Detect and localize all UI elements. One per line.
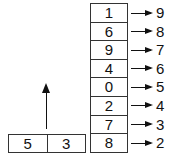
stack-cell: 73	[90, 116, 128, 135]
stack-cell: 97	[90, 41, 128, 60]
pair-right: 3	[48, 135, 86, 152]
cell-value: 4	[105, 60, 113, 77]
cell-target: 7	[156, 41, 164, 59]
cell-target: 5	[156, 78, 164, 96]
cell-value: 7	[105, 116, 113, 133]
cell-value: 8	[105, 134, 113, 151]
right-arrow-icon	[131, 87, 151, 88]
cell-target: 8	[156, 23, 164, 41]
up-arrow-icon	[46, 92, 48, 129]
right-arrow-icon	[131, 124, 151, 125]
stack-cell: 19	[90, 3, 128, 23]
stack-cell: 05	[90, 78, 128, 97]
stack-cell: 46	[90, 60, 128, 79]
right-arrow-icon	[131, 13, 151, 14]
cell-value: 1	[105, 4, 113, 21]
cell-target: 9	[156, 4, 164, 22]
stack-column: 19 68 97 46 05 24 73 82	[90, 3, 128, 153]
cell-value: 0	[105, 78, 113, 95]
stack-cell: 68	[90, 23, 128, 42]
right-arrow-icon	[131, 68, 151, 69]
right-arrow-icon	[131, 50, 151, 51]
cell-target: 2	[156, 134, 164, 152]
stack-cell: 24	[90, 97, 128, 116]
right-arrow-icon	[131, 31, 151, 32]
right-arrow-icon	[131, 105, 151, 106]
pair-box: 5 3	[8, 134, 86, 153]
cell-target: 3	[156, 116, 164, 134]
cell-value: 9	[105, 41, 113, 58]
pair-left: 5	[9, 135, 48, 152]
cell-value: 2	[105, 97, 113, 114]
cell-value: 6	[105, 23, 113, 40]
right-arrow-icon	[131, 143, 151, 144]
cell-target: 6	[156, 60, 164, 78]
cell-target: 4	[156, 97, 164, 115]
stack-cell: 82	[90, 134, 128, 153]
